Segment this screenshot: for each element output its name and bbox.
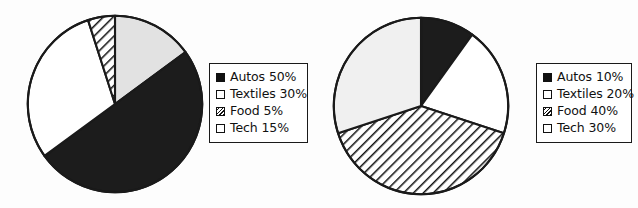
legend-item[interactable]: Textiles 20% bbox=[543, 86, 624, 103]
legend-swatch-tech-icon bbox=[216, 124, 225, 133]
legend-item[interactable]: Textiles 30% bbox=[216, 86, 300, 103]
legend-swatch-textiles-icon bbox=[543, 90, 552, 99]
pie-slices-left bbox=[26, 14, 204, 194]
pie-graphic-right bbox=[332, 16, 510, 196]
legend-left: Autos 50% Textiles 30% Food 5% Tech 15% bbox=[209, 63, 308, 143]
legend-swatch-textiles-icon bbox=[216, 90, 225, 99]
legend-right: Autos 10% Textiles 20% Food 40% Tech 30% bbox=[536, 63, 632, 143]
legend-item[interactable]: Tech 15% bbox=[216, 120, 300, 137]
legend-item[interactable]: Food 5% bbox=[216, 103, 300, 120]
legend-swatch-food-icon bbox=[216, 107, 225, 116]
legend-label-autos: Autos 10% bbox=[557, 71, 623, 84]
legend-label-tech: Tech 15% bbox=[230, 122, 289, 135]
pie-chart-right: Autos 10% Textiles 20% Food 40% Tech 30% bbox=[319, 0, 638, 208]
legend-label-tech: Tech 30% bbox=[557, 122, 616, 135]
legend-swatch-autos-icon bbox=[543, 73, 552, 82]
legend-label-autos: Autos 50% bbox=[230, 71, 296, 84]
legend-label-textiles: Textiles 30% bbox=[230, 88, 307, 101]
pie-slices-right bbox=[332, 16, 510, 196]
legend-label-food: Food 40% bbox=[557, 105, 618, 118]
legend-item[interactable]: Food 40% bbox=[543, 103, 624, 120]
page-canvas: Autos 50% Textiles 30% Food 5% Tech 15% bbox=[0, 0, 638, 208]
legend-item[interactable]: Autos 50% bbox=[216, 69, 300, 86]
legend-swatch-tech-icon bbox=[543, 124, 552, 133]
legend-swatch-food-icon bbox=[543, 107, 552, 116]
legend-swatch-autos-icon bbox=[216, 73, 225, 82]
legend-label-textiles: Textiles 20% bbox=[557, 88, 634, 101]
legend-item[interactable]: Tech 30% bbox=[543, 120, 624, 137]
legend-label-food: Food 5% bbox=[230, 105, 283, 118]
legend-item[interactable]: Autos 10% bbox=[543, 69, 624, 86]
pie-graphic-left bbox=[26, 14, 204, 194]
pie-chart-left: Autos 50% Textiles 30% Food 5% Tech 15% bbox=[0, 0, 319, 208]
